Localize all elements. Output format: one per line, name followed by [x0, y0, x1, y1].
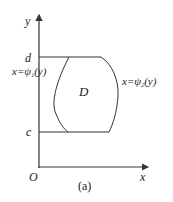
x-axis-label: x: [139, 170, 146, 184]
right-boundary-curve: [101, 57, 118, 132]
right-curve-label: x=ψ2(y): [121, 75, 157, 88]
left-boundary-curve: [54, 57, 69, 132]
region-diagram: y x O d c D x=ψ1(y) x=ψ2(y) (a): [0, 0, 173, 202]
figure-caption: (a): [78, 179, 91, 193]
upper-bound-label: d: [25, 51, 32, 65]
region-label: D: [78, 84, 89, 99]
y-axis-label: y: [24, 14, 31, 28]
lower-bound-label: c: [26, 125, 32, 139]
left-curve-label: x=ψ1(y): [11, 65, 47, 78]
origin-label: O: [29, 170, 38, 184]
